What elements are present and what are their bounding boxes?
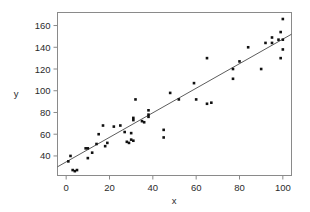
data-point: [260, 68, 263, 71]
data-point: [282, 18, 285, 21]
tick-marks: [54, 26, 283, 180]
data-point: [106, 142, 109, 145]
x-tick-label: 0: [64, 182, 69, 193]
data-point: [132, 119, 135, 122]
data-point: [264, 42, 267, 45]
data-point: [282, 48, 285, 51]
data-point: [132, 139, 135, 142]
data-point: [69, 155, 72, 158]
data-points: [67, 18, 284, 173]
data-point: [178, 98, 181, 101]
y-tick-label: 140: [35, 42, 51, 53]
y-tick-label: 80: [40, 107, 51, 118]
data-point: [162, 136, 165, 139]
x-axis-tick-labels: 020406080100: [64, 182, 291, 193]
data-point: [143, 121, 146, 124]
x-tick-label: 20: [104, 182, 115, 193]
x-tick-label: 100: [275, 182, 291, 193]
data-point: [87, 157, 90, 160]
x-tick-label: 60: [191, 182, 202, 193]
data-point: [76, 169, 79, 172]
data-point: [271, 42, 274, 45]
data-point: [238, 60, 241, 63]
y-axis-title: y: [14, 88, 19, 99]
data-point: [210, 101, 213, 104]
data-point: [91, 151, 94, 154]
data-point: [247, 46, 250, 49]
x-tick-label: 80: [234, 182, 245, 193]
y-tick-label: 60: [40, 129, 51, 140]
data-point: [119, 124, 122, 127]
data-point: [113, 125, 116, 128]
data-point: [130, 132, 133, 135]
y-axis-tick-labels: 406080100120140160: [35, 20, 51, 161]
data-point: [162, 129, 165, 132]
scatter-chart: 020406080100 406080100120140160 x y: [0, 0, 310, 212]
data-point: [195, 98, 198, 101]
data-point: [277, 38, 280, 41]
y-tick-label: 120: [35, 64, 51, 75]
data-point: [102, 124, 105, 127]
data-point: [232, 68, 235, 71]
data-point: [123, 131, 126, 134]
data-point: [206, 57, 209, 60]
data-point: [67, 160, 70, 163]
x-tick-label: 40: [148, 182, 159, 193]
y-tick-label: 40: [40, 150, 51, 161]
data-point: [193, 82, 196, 85]
data-point: [232, 77, 235, 80]
data-point: [279, 57, 282, 60]
data-point: [97, 133, 100, 136]
data-point: [128, 142, 131, 145]
data-point: [169, 92, 172, 95]
data-point: [147, 109, 150, 112]
data-point: [279, 31, 282, 34]
x-axis-title: x: [172, 195, 177, 206]
y-tick-label: 100: [35, 85, 51, 96]
data-point: [147, 116, 150, 119]
data-point: [282, 38, 285, 41]
regression-line: [58, 34, 292, 167]
data-point: [271, 36, 274, 39]
plot-canvas: 020406080100 406080100120140160 x y: [0, 0, 310, 212]
data-point: [206, 102, 209, 105]
y-tick-label: 160: [35, 20, 51, 31]
data-point: [104, 145, 107, 148]
data-point: [87, 147, 90, 150]
plot-frame: [58, 13, 292, 176]
data-point: [95, 143, 98, 146]
data-point: [134, 98, 137, 101]
